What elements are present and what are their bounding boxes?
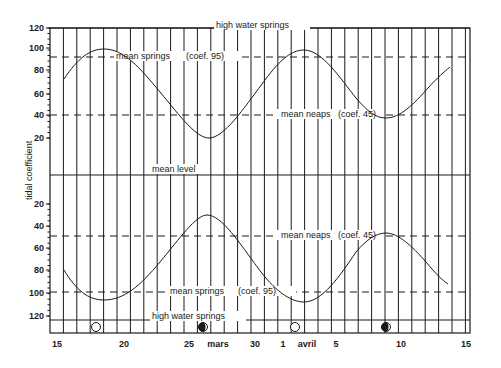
- y-tick-upper-80: 80: [34, 65, 44, 75]
- quarter-moon-icon: [382, 323, 391, 332]
- mean-neaps-upper-label: mean neaps: [281, 109, 331, 119]
- full-moon-icon: [291, 323, 300, 332]
- y-tick-upper-40: 40: [34, 110, 44, 120]
- x-tick-avril: avril: [298, 339, 317, 349]
- mean-neaps-lower-label: mean neaps: [281, 230, 331, 240]
- y-tick-lower-60: 60: [34, 243, 44, 253]
- y-tick-lower-40: 40: [34, 221, 44, 231]
- y-tick-lower-120: 120: [29, 311, 44, 321]
- tidal-coefficient-chart: high water springs mean springs (coef. 9…: [0, 0, 501, 368]
- y-tick-lower-80: 80: [34, 265, 44, 275]
- mean-level-label: mean level: [152, 164, 196, 174]
- mean-springs-lower-label: mean springs: [170, 286, 225, 296]
- y-tick-upper-60: 60: [34, 89, 44, 99]
- x-tick-mars: mars: [207, 339, 229, 349]
- mean-springs-lower-coef: (coef. 95): [238, 286, 276, 296]
- x-tick-25: 25: [184, 339, 194, 349]
- mean-neaps-upper-coef: (coef. 45): [338, 109, 376, 119]
- full-moon-icon: [92, 323, 101, 332]
- y-tick-lower-100: 100: [29, 288, 44, 298]
- x-tick-15-apr: 15: [461, 339, 471, 349]
- x-tick-1: 1: [280, 339, 285, 349]
- y-axis-title: tidal coefficient: [24, 140, 34, 200]
- y-tick-lower-20: 20: [34, 199, 44, 209]
- tidal-curve-upper: [64, 49, 450, 138]
- x-tick-5: 5: [333, 339, 338, 349]
- quarter-moon-icon: [199, 323, 208, 332]
- y-tick-upper-100: 100: [29, 43, 44, 53]
- x-tick-10: 10: [396, 339, 406, 349]
- high-water-springs-lower-label: high water springs: [152, 311, 226, 321]
- x-tick-20: 20: [119, 339, 129, 349]
- high-water-springs-upper-label: high water springs: [216, 20, 290, 30]
- x-tick-15-mar: 15: [52, 339, 62, 349]
- mean-springs-upper-coef: (coef. 95): [186, 51, 224, 61]
- x-tick-30: 30: [250, 339, 260, 349]
- y-tick-upper-120: 120: [29, 23, 44, 33]
- y-tick-upper-20: 20: [34, 133, 44, 143]
